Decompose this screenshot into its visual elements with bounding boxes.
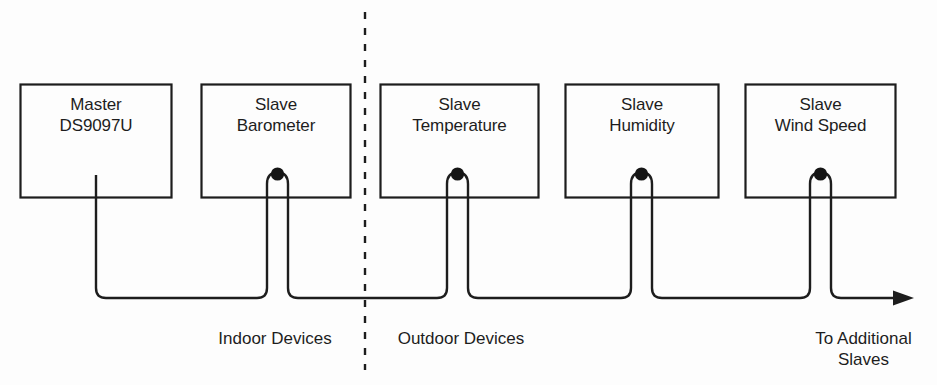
bus-segment-temperature-to-humidity [468,204,631,298]
diagram-canvas: Master DS9097U Slave Barometer Slave Tem… [0,0,937,385]
bus-segment-to-additional-slaves [831,204,898,298]
bus-segment-barometer-to-temperature [288,204,447,298]
bus-arrowhead-icon [893,291,914,306]
device-box-barometer[interactable] [202,85,351,198]
tap-dot-barometer [271,167,284,180]
tap-dot-temperature [451,167,464,180]
tap-dot-windspeed [814,167,827,180]
zone-label-indoor: Indoor Devices [195,328,355,349]
bus-segment-humidity-to-windspeed [652,204,810,298]
zone-label-outdoor: Outdoor Devices [376,328,546,349]
terminator-label-additional-slaves: To Additional Slaves [790,328,937,370]
bus-segment-master-to-barometer [96,175,267,298]
device-box-temperature[interactable] [381,85,539,198]
tap-dot-humidity [635,167,648,180]
